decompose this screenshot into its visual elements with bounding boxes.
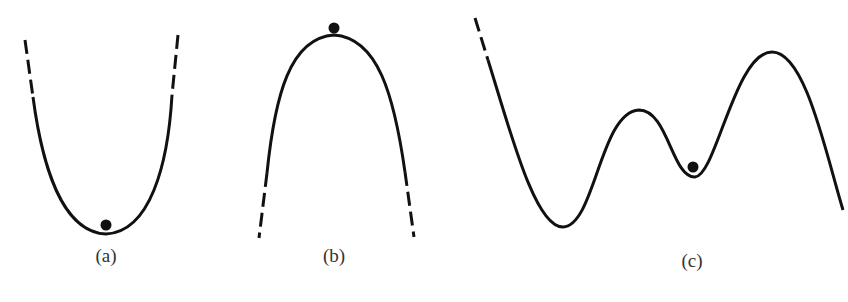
- panel-b-right-dashed-extension: [405, 172, 414, 237]
- panel-b-hill-curve: [267, 35, 405, 173]
- panel-b-label: (b): [323, 245, 345, 267]
- panel-a: [25, 35, 178, 234]
- equilibrium-figure: [0, 0, 848, 302]
- panel-c: [475, 18, 843, 227]
- panel-c-label: (c): [681, 250, 702, 272]
- panel-a-label: (a): [95, 245, 116, 267]
- panel-b: [259, 23, 414, 239]
- panel-a-well-curve: [33, 95, 172, 234]
- panel-c-ball: [688, 162, 699, 173]
- panel-a-right-dashed-extension: [172, 35, 178, 95]
- panel-a-left-dashed-extension: [25, 40, 33, 97]
- panel-c-left-dashed-extension: [475, 18, 488, 60]
- panel-a-ball: [101, 220, 112, 231]
- panel-c-multiwell-curve: [488, 52, 843, 227]
- panel-b-ball: [329, 23, 340, 34]
- panel-b-left-dashed-extension: [259, 173, 267, 238]
